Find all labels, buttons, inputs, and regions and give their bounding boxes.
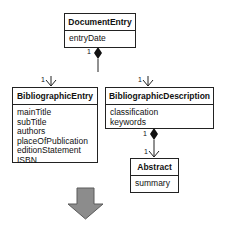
multiplicity-label: 1 xyxy=(144,148,148,156)
class-name: BibliographicEntry xyxy=(13,88,97,105)
class-attributes: mainTitle subTitle authors placeOfPublic… xyxy=(13,105,97,168)
multiplicity-label: 1 xyxy=(143,130,147,138)
class-attributes: summary xyxy=(131,176,178,191)
class-document-entry: DocumentEntry entryDate xyxy=(64,13,136,48)
class-attributes: classification keywords xyxy=(106,105,213,129)
attribute: keywords xyxy=(110,118,209,128)
class-bibliographic-description: BibliographicDescription classification … xyxy=(105,87,214,129)
attribute: ISBN xyxy=(17,156,93,166)
composition-diamond-icon xyxy=(150,128,158,140)
multiplicity-label: 1 xyxy=(41,76,45,84)
class-name: Abstract xyxy=(131,159,178,176)
composition-diamond-icon xyxy=(94,47,102,59)
class-abstract: Abstract summary xyxy=(130,158,179,193)
class-attributes: entryDate xyxy=(65,31,135,46)
multiplicity-label: 1 xyxy=(87,48,91,56)
down-arrow-icon xyxy=(68,188,103,219)
multiplicity-label: 1 xyxy=(138,76,142,84)
class-name: BibliographicDescription xyxy=(106,88,213,105)
class-bibliographic-entry: BibliographicEntry mainTitle subTitle au… xyxy=(12,87,98,163)
class-name: DocumentEntry xyxy=(65,14,135,31)
attribute: summary xyxy=(135,179,174,189)
attribute: entryDate xyxy=(69,34,131,44)
